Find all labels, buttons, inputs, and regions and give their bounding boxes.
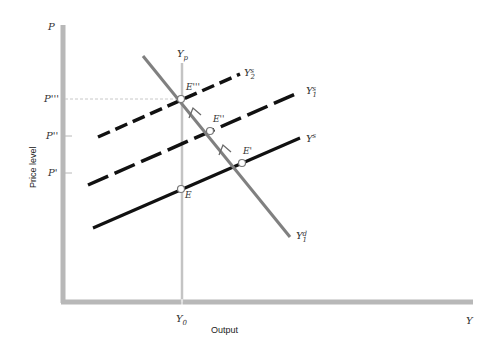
point-e2 [207,128,214,135]
supply-curve-y2s [98,74,240,137]
x-axis-letter: Y [466,316,473,326]
potential-output-label: Yp [177,49,188,62]
supply-label-ys: Ys [306,133,316,144]
output-label-y0: Y0 [176,314,187,327]
y-axis-letter: P [48,22,55,32]
ad-as-diagram: P Y P''' P'' P' Y0 Yp Ys2 Ys1 Ys Yd1 E E… [0,0,496,337]
supply-curve-ys [93,138,300,228]
supply-curve-y1s [88,92,300,185]
point-e [178,186,185,193]
point-label-e3: E''' [186,83,200,92]
point-e1 [239,160,246,167]
y-axis-title: Price level [28,146,38,188]
price-label-p3: P''' [44,94,59,104]
supply-label-y1s: Ys1 [306,86,317,99]
demand-curve-y1d [143,56,290,237]
point-label-e: E [185,191,192,200]
diagram-canvas [0,0,496,337]
point-e3 [178,96,185,103]
price-label-p2: P'' [46,131,58,141]
point-label-e1: E' [243,147,252,156]
x-axis-title: Output [211,325,238,335]
point-label-e2: E'' [213,115,225,124]
price-label-p1: P' [48,168,57,178]
demand-label-y1d: Yd1 [296,231,307,244]
supply-label-y2s: Ys2 [244,68,255,81]
